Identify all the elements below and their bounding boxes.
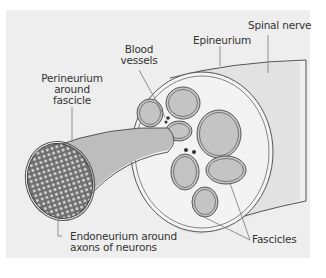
fascicle xyxy=(197,110,241,158)
fascicle xyxy=(206,156,246,184)
label-epineurium: Epineurium xyxy=(193,35,251,46)
fascicle xyxy=(137,99,163,127)
fascicle xyxy=(192,187,218,217)
label-spinal-nerve: Spinal nerve xyxy=(248,20,311,31)
label-fascicles: Fascicles xyxy=(252,234,297,245)
label-endoneurium: Endoneurium around axons of neurons xyxy=(70,231,177,253)
fascicle xyxy=(171,154,199,190)
label-blood-vessels-line2: vessels xyxy=(114,55,164,66)
label-blood-vessels: Blood vessels xyxy=(114,44,164,66)
fascicle xyxy=(166,87,200,119)
label-perineurium-line3: fascicle xyxy=(36,95,108,106)
label-endoneurium-line2: axons of neurons xyxy=(70,242,177,253)
label-perineurium: Perineurium around fascicle xyxy=(36,73,108,106)
